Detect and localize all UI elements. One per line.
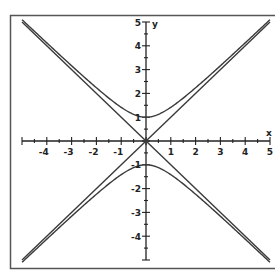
y-tick-label: 5 — [135, 18, 141, 28]
y-tick-label: -1 — [131, 160, 141, 170]
x-tick-label: 3 — [217, 147, 223, 157]
x-tick-label: 5 — [267, 147, 273, 157]
y-tick-label: -2 — [131, 184, 141, 194]
y-tick-label: 4 — [135, 41, 141, 51]
x-tick-label: -3 — [64, 147, 74, 157]
y-tick-label: -4 — [131, 232, 141, 242]
x-tick-label: -4 — [39, 147, 49, 157]
x-tick-label: -1 — [113, 147, 123, 157]
y-axis-label: y — [152, 19, 158, 29]
x-tick-label: -2 — [88, 147, 98, 157]
graph-plot: -4-3-2-11234554321-1-2-3-4 x y — [0, 0, 275, 273]
x-tick-label: 4 — [242, 147, 248, 157]
x-tick-label: 1 — [168, 147, 174, 157]
x-axis-label: x — [266, 128, 272, 138]
y-tick-label: 1 — [135, 113, 141, 123]
y-tick-label: 3 — [135, 65, 141, 75]
y-tick-label: 2 — [135, 89, 141, 99]
y-tick-label: -3 — [131, 208, 141, 218]
x-tick-label: 2 — [192, 147, 198, 157]
